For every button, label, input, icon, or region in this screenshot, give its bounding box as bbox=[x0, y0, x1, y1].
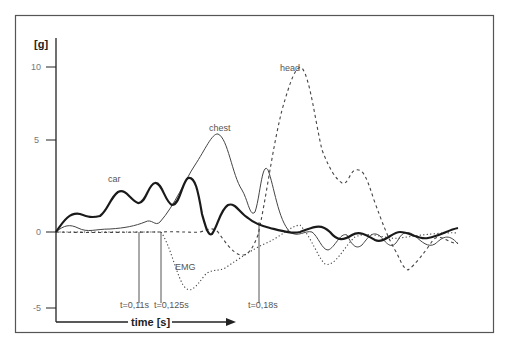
marker-label-011: t=0,11s bbox=[120, 300, 150, 310]
series-emg bbox=[56, 225, 458, 290]
marker-label-0125: t=0,125s bbox=[154, 300, 189, 310]
x-axis: time [s] bbox=[56, 316, 236, 328]
y-tick-0: 0 bbox=[36, 227, 41, 237]
y-ticks: 10 5 0 -5 bbox=[31, 62, 56, 313]
x-axis-title: time [s] bbox=[131, 316, 170, 328]
y-tick-10: 10 bbox=[31, 62, 41, 72]
series-car bbox=[56, 178, 458, 241]
y-tick-minus5: -5 bbox=[33, 303, 41, 313]
arrow-icon bbox=[226, 318, 236, 326]
time-markers: t=0,11s t=0,125s t=0,18s bbox=[120, 222, 278, 310]
y-axis-unit: [g] bbox=[34, 38, 48, 50]
series-label-emg: EMG bbox=[175, 262, 196, 272]
series-label-head: head bbox=[280, 63, 300, 73]
acceleration-chart: [g] 10 5 0 -5 time [s] t=0,11s t=0,125s … bbox=[0, 0, 509, 347]
chart-frame bbox=[16, 16, 494, 333]
y-tick-5: 5 bbox=[34, 135, 39, 145]
series-label-car: car bbox=[108, 174, 121, 184]
series-label-chest: chest bbox=[209, 123, 231, 133]
marker-label-018: t=0,18s bbox=[248, 300, 278, 310]
